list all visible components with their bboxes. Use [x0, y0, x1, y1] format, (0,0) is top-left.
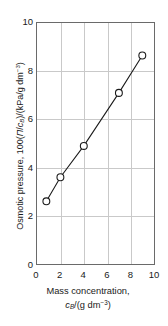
y-axis-label-prefix: Osmotic pressure, 100(	[15, 136, 25, 230]
x-tick-label: 2	[51, 270, 69, 280]
pi-symbol: Π	[15, 130, 25, 137]
x-tick-label: 6	[98, 270, 116, 280]
data-point-marker	[80, 142, 87, 149]
x-tick-label: 10	[145, 270, 163, 280]
x-axis-tick-labels: 0 2 4 6 8 10	[36, 270, 155, 282]
concentration-symbol: c	[15, 123, 25, 128]
data-point-marker	[57, 174, 64, 181]
y-axis-label-exponent: −3	[14, 65, 21, 72]
x-axis-label-line1: Mass concentration,	[46, 286, 129, 296]
data-point-marker	[43, 198, 50, 205]
data-point-marker	[115, 89, 122, 96]
x-axis-units-open: /(g dm	[74, 300, 100, 310]
x-tick-label: 8	[121, 270, 139, 280]
x-axis-label-line2: cB/(g dm−3)	[18, 297, 158, 313]
x-axis-label: Mass concentration,cB/(g dm−3)	[18, 285, 158, 313]
x-axis-label-close: )	[108, 300, 111, 310]
y-axis-label-slash: /	[15, 127, 25, 130]
concentration-subscript: B	[18, 119, 25, 123]
data-point-marker	[139, 52, 146, 59]
y-axis-label-suffix: )/(kPa/g dm	[15, 72, 25, 119]
x-tick-label: 0	[27, 270, 45, 280]
y-axis-label-close: )	[15, 62, 25, 65]
data-series-layer	[37, 23, 154, 264]
osmotic-pressure-chart: 10 8 6 4 2 0 0 2 4 6 8 10 Osmotic pressu…	[0, 0, 168, 326]
x-tick-label: 4	[74, 270, 92, 280]
plot-area	[36, 22, 155, 265]
x-axis-label-exponent: −3	[100, 299, 107, 306]
y-axis-label: Osmotic pressure, 100(Π/cB)/(kPa/g dm−3)	[13, 22, 27, 270]
